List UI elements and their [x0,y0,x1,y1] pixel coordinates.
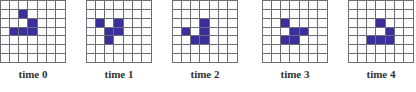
empty-cell [272,18,281,27]
empty-cell [404,53,413,62]
empty-cell [395,18,404,27]
empty-cell [395,0,404,9]
empty-cell [263,53,272,62]
grid-panel-time-1: time 1 [86,0,152,63]
live-cell [182,27,191,36]
empty-cell [358,35,367,44]
empty-cell [1,27,10,36]
empty-cell [191,0,200,9]
empty-cell [105,18,114,27]
empty-cell [349,18,358,27]
live-cell [200,27,209,36]
empty-cell [87,27,96,36]
empty-cell [318,53,327,62]
empty-cell [124,0,133,9]
empty-cell [142,27,151,36]
empty-cell [124,27,133,36]
empty-cell [96,9,105,18]
empty-cell [228,44,237,53]
empty-cell [105,44,114,53]
empty-cell [105,0,114,9]
empty-cell [386,18,395,27]
empty-cell [309,35,318,44]
empty-cell [367,27,376,36]
empty-cell [219,9,228,18]
empty-cell [1,53,10,62]
empty-cell [10,35,19,44]
empty-cell [404,44,413,53]
empty-cell [28,44,37,53]
empty-cell [19,53,28,62]
empty-cell [19,44,28,53]
time-label: time 0 [0,68,66,80]
empty-cell [28,9,37,18]
empty-cell [367,44,376,53]
empty-cell [191,9,200,18]
empty-cell [114,35,123,44]
live-cell [10,27,19,36]
empty-cell [87,9,96,18]
live-cell [386,27,395,36]
empty-cell [376,53,385,62]
empty-cell [142,44,151,53]
cell-grid [348,0,414,63]
empty-cell [376,0,385,9]
empty-cell [358,9,367,18]
empty-cell [173,53,182,62]
empty-cell [228,0,237,9]
empty-cell [47,35,56,44]
empty-cell [200,9,209,18]
empty-cell [219,44,228,53]
empty-cell [142,53,151,62]
live-cell [200,18,209,27]
empty-cell [191,44,200,53]
empty-cell [38,9,47,18]
empty-cell [309,0,318,9]
time-label: time 4 [348,68,414,80]
empty-cell [38,44,47,53]
empty-cell [1,44,10,53]
empty-cell [142,9,151,18]
empty-cell [272,44,281,53]
empty-cell [173,9,182,18]
empty-cell [404,9,413,18]
empty-cell [263,9,272,18]
empty-cell [318,18,327,27]
cell-grid [262,0,328,63]
empty-cell [300,53,309,62]
empty-cell [349,0,358,9]
live-cell [290,27,299,36]
empty-cell [47,44,56,53]
empty-cell [210,0,219,9]
empty-cell [290,53,299,62]
cell-grid [0,0,66,63]
empty-cell [210,27,219,36]
empty-cell [28,0,37,9]
empty-cell [404,18,413,27]
live-cell [114,18,123,27]
empty-cell [376,44,385,53]
empty-cell [349,53,358,62]
empty-cell [105,9,114,18]
empty-cell [228,18,237,27]
empty-cell [114,9,123,18]
empty-cell [133,44,142,53]
empty-cell [263,27,272,36]
cell-grid [172,0,238,63]
empty-cell [358,18,367,27]
empty-cell [47,0,56,9]
empty-cell [10,9,19,18]
empty-cell [142,18,151,27]
empty-cell [376,9,385,18]
empty-cell [309,53,318,62]
live-cell [376,35,385,44]
empty-cell [38,0,47,9]
empty-cell [87,44,96,53]
empty-cell [219,27,228,36]
empty-cell [349,27,358,36]
empty-cell [56,53,65,62]
empty-cell [300,9,309,18]
live-cell [191,35,200,44]
empty-cell [272,53,281,62]
empty-cell [182,0,191,9]
